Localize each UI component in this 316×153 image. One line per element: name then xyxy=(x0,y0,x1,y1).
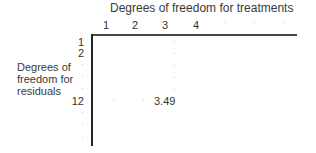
cell-ellipsis: · xyxy=(138,96,148,105)
cell-ellipsis: · xyxy=(169,37,179,46)
row-header-ellipsis: · xyxy=(60,120,84,129)
column-axis-title: Degrees of freedom for treatments xyxy=(110,1,293,15)
table-top-border xyxy=(92,34,297,36)
table-left-border xyxy=(91,34,93,146)
row-header: 2 xyxy=(60,47,84,59)
column-header: 3 xyxy=(157,19,173,31)
critical-value-cell: 3.49 xyxy=(154,95,175,107)
row-header: 12 xyxy=(60,95,84,107)
column-header: 4 xyxy=(188,19,204,31)
cell-ellipsis: · xyxy=(109,96,119,105)
cell-ellipsis: · xyxy=(169,73,179,82)
row-header-ellipsis: · xyxy=(60,133,84,142)
column-header: 2 xyxy=(127,19,143,31)
row-header-ellipsis: · xyxy=(60,72,84,81)
column-header: 1 xyxy=(98,19,114,31)
column-header-ellipsis: · xyxy=(220,18,230,27)
column-header-ellipsis: · xyxy=(249,18,259,27)
cell-ellipsis: · xyxy=(169,49,179,58)
cell-ellipsis: · xyxy=(169,85,179,94)
row-header-ellipsis: · xyxy=(60,108,84,117)
row-header-ellipsis: · xyxy=(60,84,84,93)
cell-ellipsis: · xyxy=(169,61,179,70)
row-header-ellipsis: · xyxy=(60,60,84,69)
column-header-ellipsis: · xyxy=(278,18,288,27)
